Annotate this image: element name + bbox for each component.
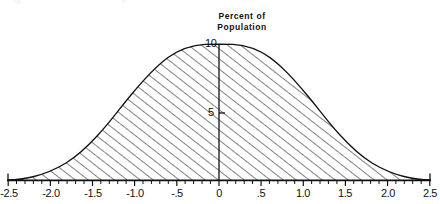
x-tick-label--0.5: -.5 <box>171 187 183 199</box>
x-tick-label-0.5: .5 <box>257 187 265 199</box>
x-tick-label--2.0: -2.0 <box>42 187 59 199</box>
x-tick-label--1.5: -1.5 <box>84 187 101 199</box>
chart-title: Percent of Population <box>196 11 288 33</box>
x-tick-label-2.5: 2.5 <box>423 187 437 199</box>
x-tick-label-0: 0 <box>216 187 222 199</box>
chart-figure: ig. p <box>0 0 440 204</box>
x-tick-label--1.0: -1.0 <box>126 187 143 199</box>
x-tick-label-1.0: 1.0 <box>296 187 310 199</box>
x-axis-major-ticks <box>8 181 430 186</box>
x-tick-label--2.5: -2.5 <box>0 187 17 199</box>
x-tick-label-2.0: 2.0 <box>381 187 395 199</box>
x-tick-label-1.5: 1.5 <box>338 187 352 199</box>
y-axis-label-10: 10 <box>205 37 217 49</box>
chart-title-line2: Population <box>196 22 288 33</box>
y-axis-label-5: 5 <box>208 106 214 118</box>
chart-title-line1: Percent of <box>196 11 288 22</box>
